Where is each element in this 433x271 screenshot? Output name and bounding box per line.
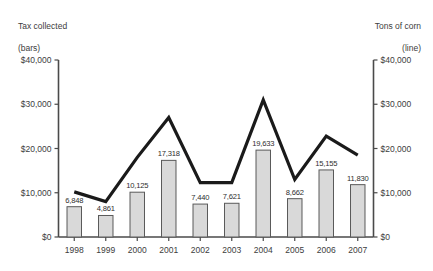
- bar-value-label: 15,155: [315, 159, 337, 168]
- plot-area: [0, 0, 433, 271]
- x-axis-tick-label: 2003: [222, 245, 241, 255]
- y-axis-tick-label-left: $10,000: [21, 188, 52, 198]
- bar-value-label: 19,633: [252, 139, 274, 148]
- y-axis-tick-label-left: $40,000: [21, 55, 52, 65]
- bar: [162, 160, 176, 237]
- bar: [99, 215, 113, 237]
- line-series: [74, 100, 358, 202]
- y-axis-tick-label-right: $10,000: [381, 188, 412, 198]
- bar: [319, 170, 333, 237]
- y-axis-tick-label-right: $30,000: [381, 99, 412, 109]
- bar-value-label: 17,318: [158, 149, 180, 158]
- bar-value-label: 7,621: [223, 192, 241, 201]
- x-axis-tick-label: 1999: [96, 245, 115, 255]
- chart-container: Tax collected (bars) Tons of corn (line)…: [0, 0, 433, 271]
- y-axis-tick-label-right: $40,000: [381, 55, 412, 65]
- bar-value-label: 8,662: [286, 188, 304, 197]
- bar: [225, 203, 239, 237]
- x-axis-tick-label: 2005: [285, 245, 304, 255]
- y-axis-tick-label-left: $0: [42, 232, 51, 242]
- x-axis-tick-label: 2004: [254, 245, 273, 255]
- bar-value-label: 10,125: [126, 181, 148, 190]
- y-axis-tick-label-left: $20,000: [21, 144, 52, 154]
- bar: [288, 199, 302, 237]
- x-axis-tick-label: 2006: [317, 245, 336, 255]
- bar: [193, 204, 207, 237]
- x-axis-tick-label: 2000: [128, 245, 147, 255]
- x-axis-tick-label: 2001: [159, 245, 178, 255]
- bar-value-label: 4,861: [97, 204, 115, 213]
- bar: [256, 150, 270, 237]
- x-axis-tick-label: 2007: [348, 245, 367, 255]
- y-axis-tick-label-left: $30,000: [21, 99, 52, 109]
- x-axis-tick-label: 1998: [65, 245, 84, 255]
- bar-value-label: 7,440: [191, 193, 209, 202]
- y-axis-tick-label-right: $20,000: [381, 144, 412, 154]
- y-axis-tick-label-right: $0: [381, 232, 390, 242]
- bar-value-label: 11,830: [347, 174, 368, 183]
- bar: [67, 207, 81, 237]
- x-axis-tick-label: 2002: [191, 245, 210, 255]
- bar-value-label: 6,848: [65, 196, 83, 205]
- bar: [130, 192, 144, 237]
- bar: [351, 185, 365, 237]
